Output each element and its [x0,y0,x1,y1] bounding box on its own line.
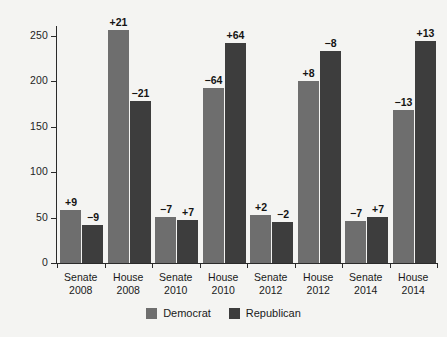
bar-pair: −13+13 [391,20,439,263]
bar-republican [130,101,151,263]
legend-item-republican[interactable]: Republican [229,307,301,319]
bar-group: +21−21 [106,20,154,263]
bar-democrat [155,217,176,263]
bar-group: +9−9 [58,20,106,263]
bar-value-label: −9 [78,211,108,223]
bar-pair: +8−8 [296,20,344,263]
x-axis-tick-mark [247,263,248,268]
bar-pair: −64+64 [201,20,249,263]
bar-group: +8−8 [296,20,344,263]
category-chamber: Senate [254,271,287,283]
y-axis-tick-label: 50 [36,211,48,223]
bar-republican [367,217,388,263]
bar-group: −64+64 [201,20,249,263]
bar-democrat [298,81,319,264]
y-axis-tick: 100 [0,172,57,173]
y-axis-tick: 50 [0,218,57,219]
y-axis-tick: 200 [0,81,57,82]
bar-democrat [250,215,271,263]
legend-label: Democrat [163,307,211,319]
bar-republican [177,220,198,263]
category-chamber: House [208,271,238,283]
bar-value-label: −21 [126,87,156,99]
bar-value-label: +7 [173,206,203,218]
y-axis-ticks: 050100150200250 [0,0,57,337]
bar-democrat [345,221,366,263]
x-axis-tick-mark [152,263,153,268]
bar-pair: −7+7 [153,20,201,263]
bar-democrat [393,110,414,263]
x-axis-tick-mark [437,263,438,268]
legend-label: Republican [246,307,301,319]
category-chamber: House [113,271,143,283]
y-axis-tick-mark [51,127,57,128]
bar-chart: 050100150200250 +9−9+21−21−7+7−64+64+2−2… [0,0,447,337]
bar-value-label: +7 [363,203,393,215]
y-axis-tick: 0 [0,263,57,264]
bar-republican [82,225,103,263]
category-year: 2014 [384,284,442,297]
y-axis-tick-label: 150 [30,120,48,132]
y-axis-tick-mark [51,218,57,219]
bar-value-label: +21 [104,16,134,28]
y-axis-tick-label: 200 [30,74,48,86]
bar-pair: +9−9 [58,20,106,263]
category-chamber: House [303,271,333,283]
x-axis-tick-mark [105,263,106,268]
category-chamber: Senate [159,271,192,283]
x-axis-category-label: House2014 [384,271,442,296]
bar-value-label: +9 [56,196,86,208]
bar-pair: −7+7 [343,20,391,263]
bar-republican [320,51,341,263]
x-axis-tick-mark [342,263,343,268]
y-axis-tick-mark [51,81,57,82]
y-axis-tick-label: 0 [42,256,48,268]
x-axis-tick-mark [390,263,391,268]
bar-democrat [203,88,224,263]
legend-swatch-icon [229,308,240,319]
y-axis-tick-mark [51,36,57,37]
y-axis-tick-label: 100 [30,165,48,177]
bar-group: −13+13 [391,20,439,263]
bar-value-label: −2 [268,208,298,220]
legend-swatch-icon [146,308,157,319]
bar-value-label: +64 [221,29,251,41]
y-axis-tick-label: 250 [30,29,48,41]
bar-republican [415,41,436,263]
chart-legend: DemocratRepublican [0,307,447,319]
bar-value-label: +13 [411,27,441,39]
category-chamber: Senate [349,271,382,283]
category-chamber: Senate [64,271,97,283]
bar-democrat [108,30,129,263]
x-axis-tick-mark [200,263,201,268]
bar-group: +2−2 [248,20,296,263]
y-axis-tick: 150 [0,127,57,128]
y-axis-tick: 250 [0,36,57,37]
x-axis-tick-mark [57,263,58,268]
bar-value-label: −8 [316,37,346,49]
bar-republican [225,43,246,263]
bar-pair: +21−21 [106,20,154,263]
bar-group: −7+7 [153,20,201,263]
bar-group: −7+7 [343,20,391,263]
bar-republican [272,222,293,263]
legend-item-democrat[interactable]: Democrat [146,307,211,319]
bar-pair: +2−2 [248,20,296,263]
category-chamber: House [398,271,428,283]
x-axis-tick-mark [295,263,296,268]
y-axis-tick-mark [51,172,57,173]
